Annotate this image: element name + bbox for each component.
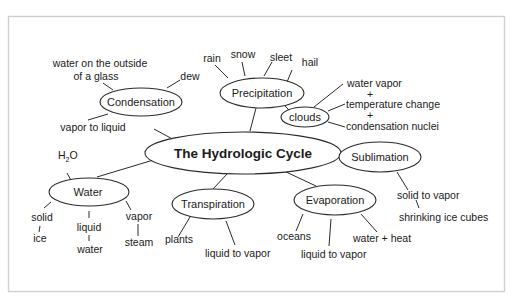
clouds-detail: temperature change	[346, 98, 440, 110]
precipitation-detail: snow	[231, 48, 256, 60]
water-detail: steam	[125, 236, 154, 248]
precipitation-detail: sleet	[270, 51, 292, 63]
water-detail: solid	[31, 211, 53, 223]
evaporation-detail: water + heat	[352, 232, 411, 244]
condensation-detail: of a glass	[74, 70, 119, 82]
diagram-title: The Hydrologic Cycle	[174, 146, 313, 161]
water-detail: vapor	[126, 210, 153, 222]
condensation-detail: vapor to liquid	[60, 121, 126, 133]
sublimation-detail: shrinking ice cubes	[399, 211, 488, 223]
condensation-label: Condensation	[107, 96, 175, 108]
water-detail: ice	[33, 232, 47, 244]
evaporation-label: Evaporation	[306, 194, 365, 206]
water-detail: liquid	[77, 221, 102, 233]
precipitation-detail: hail	[302, 56, 318, 68]
center-node: The Hydrologic Cycle	[145, 132, 341, 174]
sublimation-detail: solid to vapor	[397, 189, 460, 201]
transpiration-detail: plants	[165, 233, 193, 245]
hydrologic-cycle-diagram: The Hydrologic Cycle Condensation water …	[0, 0, 515, 304]
precipitation-detail: rain	[203, 52, 221, 64]
water-label: Water	[74, 186, 103, 198]
water-detail: water	[76, 243, 103, 255]
evaporation-detail: oceans	[277, 230, 311, 242]
clouds-label: clouds	[289, 111, 321, 123]
condensation-detail: water on the outside	[52, 57, 148, 69]
clouds-detail: water vapor	[346, 77, 402, 89]
condensation-detail: dew	[180, 70, 200, 82]
clouds-detail: condensation nuclei	[346, 120, 439, 132]
precipitation-label: Precipitation	[232, 87, 293, 99]
transpiration-detail: liquid to vapor	[205, 247, 271, 259]
sublimation-label: Sublimation	[351, 151, 408, 163]
transpiration-label: Transpiration	[181, 198, 245, 210]
evaporation-detail: liquid to vapor	[301, 248, 367, 260]
